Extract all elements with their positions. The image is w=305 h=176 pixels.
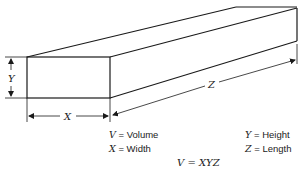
legend-item-length: Z = Length: [245, 143, 292, 154]
legend-meaning: Length: [262, 143, 291, 154]
legend-symbol: V: [109, 129, 116, 140]
legend-symbol: Y: [245, 129, 251, 140]
height-label: Y: [8, 73, 16, 84]
length-label: Z: [207, 79, 216, 90]
legend-eq: =: [254, 143, 260, 154]
legend-eq: =: [119, 129, 125, 140]
legend-item-width: X = Width: [109, 143, 151, 154]
legend-item-height: Y = Height: [245, 129, 290, 140]
legend-meaning: Volume: [127, 129, 159, 140]
length-dimension: [113, 44, 297, 115]
legend-meaning: Width: [127, 143, 151, 154]
prism-outline: [27, 7, 297, 98]
legend-eq: =: [118, 143, 124, 154]
front-face: [27, 57, 110, 98]
volume-formula: V = XYZ: [177, 157, 220, 168]
legend-meaning: Height: [262, 129, 289, 140]
legend-symbol: X: [109, 143, 116, 154]
legend-symbol: Z: [245, 143, 252, 154]
legend-eq: =: [254, 129, 260, 140]
legend-item-volume: V = Volume: [109, 129, 158, 140]
width-label: X: [63, 111, 72, 122]
